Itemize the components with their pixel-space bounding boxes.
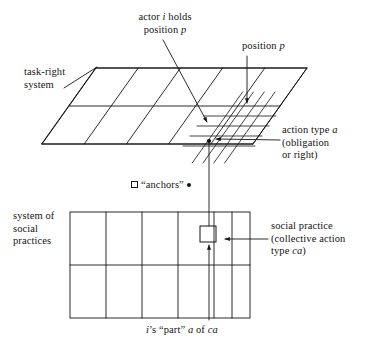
label-actor-holds-position: actor i holds position p: [113, 11, 217, 36]
leader-task-right-system: [64, 67, 97, 88]
label-part-of-mid2: of: [193, 324, 207, 335]
label-part-of-mid1: ’s “part”: [149, 324, 188, 335]
label-actor-holds-line2-pre: position: [144, 24, 181, 35]
label-actor-holds-line1-pre: actor: [138, 11, 162, 22]
label-system-of-social-practices-line1: system of: [13, 210, 54, 223]
label-action-type-line3: or right): [282, 149, 368, 162]
label-task-right-system: task-right system: [24, 66, 65, 91]
label-actor-holds-line1-post: holds: [166, 11, 192, 22]
leader-actor-holds: [163, 40, 207, 122]
label-task-right-system-line1: task-right: [24, 66, 65, 79]
anchor-point-dot: [207, 139, 211, 143]
leader-action-type: [216, 139, 280, 140]
diagram-canvas: [0, 0, 369, 348]
label-social-practice-line3: type ca): [271, 245, 369, 258]
label-action-type-line1: action type a: [282, 124, 368, 137]
label-social-practice-line2: (collective action: [271, 233, 369, 246]
label-action-type-line1-italic: a: [332, 124, 337, 135]
label-social-practice-line3-italic: ca: [292, 245, 302, 256]
label-position-p: position p: [242, 40, 285, 53]
label-anchors-text: “anchors”: [141, 179, 184, 190]
label-actor-holds-line2: position p: [113, 24, 217, 37]
label-anchors: “anchors”: [131, 179, 191, 192]
label-position-p-pre: position: [242, 40, 279, 51]
label-action-type-line2: (obligation: [282, 137, 368, 150]
label-actor-holds-line2-italic: p: [181, 24, 186, 35]
label-actor-holds-line1: actor i holds: [113, 11, 217, 24]
anchors-square-icon: [131, 181, 138, 188]
label-system-of-social-practices-line3: practices: [13, 235, 54, 248]
label-social-practice-line3-post: ): [302, 245, 306, 256]
label-social-practice-line3-pre: type: [271, 245, 292, 256]
plane-social-practices: [70, 212, 250, 318]
label-system-of-social-practices-line2: social: [13, 223, 54, 236]
anchors-dot-icon: [187, 183, 191, 187]
label-system-of-social-practices: system of social practices: [13, 210, 54, 248]
label-social-practice: social practice (collective action type …: [271, 220, 369, 258]
figure-anchoring-diagram: actor i holds position p position p task…: [0, 0, 369, 348]
label-social-practice-line1: social practice: [271, 220, 369, 233]
label-action-type-line1-pre: action type: [282, 124, 332, 135]
label-part-of-ca: i’s “part” a of ca: [146, 324, 218, 337]
label-task-right-system-line2: system: [24, 79, 65, 92]
label-action-type: action type a (obligation or right): [282, 124, 368, 162]
label-part-of-italic-ca: ca: [208, 324, 218, 335]
plane-task-right-system: [42, 68, 307, 144]
label-position-p-italic: p: [279, 40, 284, 51]
